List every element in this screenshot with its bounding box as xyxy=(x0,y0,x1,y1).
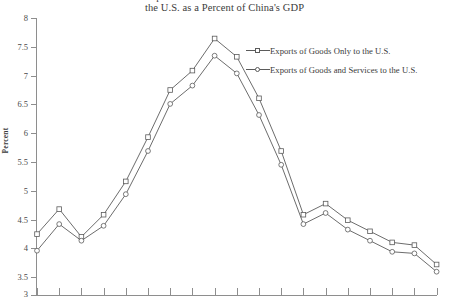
open-circle-marker-icon xyxy=(246,65,270,75)
data-point xyxy=(146,149,151,154)
data-point xyxy=(434,262,439,267)
data-point xyxy=(323,211,328,216)
data-point xyxy=(123,192,128,197)
data-point xyxy=(168,102,173,107)
legend-item-goods-and-services[interactable]: Exports of Goods and Services to the U.S… xyxy=(246,60,417,79)
data-point xyxy=(301,222,306,227)
data-point xyxy=(390,249,395,254)
data-point xyxy=(390,240,395,245)
data-point xyxy=(57,222,62,227)
data-point xyxy=(368,238,373,243)
data-point xyxy=(257,96,262,101)
legend-label: Exports of Goods and Services to the U.S… xyxy=(270,65,417,75)
data-point xyxy=(301,212,306,217)
data-point xyxy=(79,238,84,243)
data-point xyxy=(57,207,62,212)
data-point xyxy=(168,88,173,93)
data-point xyxy=(190,68,195,73)
data-point xyxy=(346,218,351,223)
data-point xyxy=(101,212,106,217)
data-point xyxy=(279,162,284,167)
data-point xyxy=(345,227,350,232)
data-point xyxy=(146,135,151,140)
data-point xyxy=(124,179,129,184)
legend-item-goods-only[interactable]: Exports of Goods Only to the U.S. xyxy=(246,41,417,60)
series-line-1 xyxy=(37,56,437,272)
chart-legend: Exports of Goods Only to the U.S. Export… xyxy=(246,41,417,79)
data-point xyxy=(212,53,217,58)
chart-container: China's Exports of Goods and Goods-and-S… xyxy=(0,0,449,298)
data-point xyxy=(323,201,328,206)
data-point xyxy=(234,71,239,76)
data-point xyxy=(257,113,262,118)
data-point xyxy=(35,248,40,253)
data-point xyxy=(35,232,40,237)
data-point xyxy=(279,149,284,154)
data-point xyxy=(101,223,106,228)
data-point xyxy=(190,83,195,88)
data-point xyxy=(434,269,439,274)
data-point xyxy=(368,229,373,234)
data-point xyxy=(235,55,240,60)
data-point xyxy=(212,36,217,41)
legend-label: Exports of Goods Only to the U.S. xyxy=(270,46,391,56)
open-square-marker-icon xyxy=(246,46,270,56)
data-point xyxy=(412,243,417,248)
data-point xyxy=(412,251,417,256)
